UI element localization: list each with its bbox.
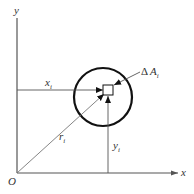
xi-label: xi (44, 76, 52, 91)
diagram-canvas: y x O xi yi ri ΔAi (0, 0, 194, 194)
yi-label: yi (112, 139, 120, 154)
ri-label: ri (59, 130, 65, 145)
origin-label: O (8, 175, 16, 187)
dA-label: ΔAi (141, 65, 159, 80)
area-boundary (74, 68, 132, 126)
dA-leader (114, 72, 140, 85)
y-axis-label: y (13, 4, 19, 16)
x-axis-label: x (180, 166, 186, 178)
area-element (103, 85, 113, 95)
